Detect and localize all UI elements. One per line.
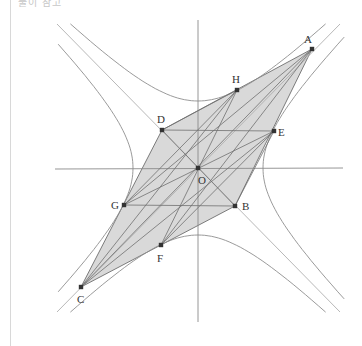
point-label: O	[198, 174, 206, 186]
point-marker-icon	[79, 285, 83, 289]
point-marker-icon	[160, 128, 164, 132]
point-label: C	[77, 293, 84, 305]
point-marker-icon	[233, 204, 237, 208]
point-label: F	[157, 252, 163, 264]
point-label: E	[278, 126, 285, 138]
point-marker-icon	[235, 88, 239, 92]
hyperbola-diagram: AHDEOBGFC	[0, 0, 362, 346]
point-marker-icon	[272, 129, 276, 133]
point-label: A	[304, 33, 312, 45]
point-label: G	[111, 199, 119, 211]
point-marker-icon	[122, 203, 126, 207]
point-marker-icon	[310, 47, 314, 51]
point-marker-icon	[159, 243, 163, 247]
point-marker-icon	[196, 166, 200, 170]
point-h: H	[232, 73, 240, 92]
point-d: D	[157, 113, 165, 132]
point-label: D	[157, 113, 165, 125]
point-c: C	[77, 285, 84, 305]
point-label: B	[242, 200, 249, 212]
point-label: H	[232, 73, 240, 85]
